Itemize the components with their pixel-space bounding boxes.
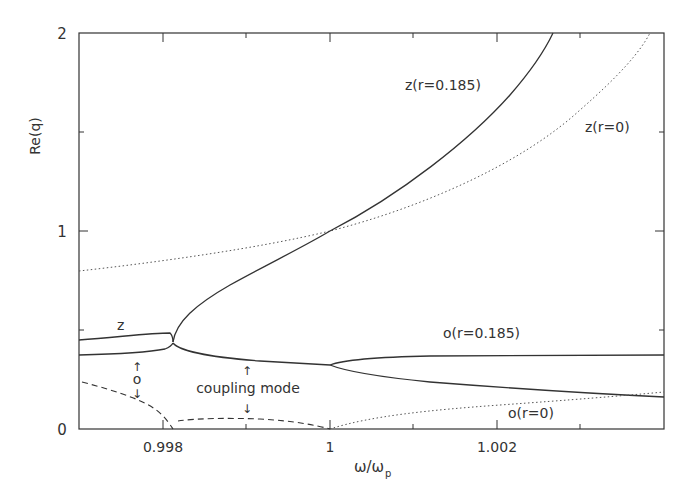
series-dashed-left [82, 382, 173, 429]
x-axis-label-subscript: p [385, 468, 391, 479]
arrow-down-icon: ↓ [242, 402, 252, 416]
annotation-coupling-mode: coupling mode [196, 380, 300, 396]
series-o-r0185-lower [330, 365, 664, 397]
plot-frame [79, 33, 664, 429]
annotation-o: o [133, 371, 142, 387]
y-tick-label: 2 [57, 25, 67, 43]
y-tick-label: 0 [57, 421, 67, 439]
chart-canvas: 0.998 1 1.002 0 1 2 Re(q) ω/ω p z(r=0.18… [0, 0, 687, 500]
annotation-o-r0185: o(r=0.185) [443, 325, 520, 341]
x-axis-label: ω/ω [354, 458, 384, 476]
annotation-o-r0: o(r=0) [508, 405, 554, 421]
annotation-z: z [117, 317, 124, 333]
y-ticks [79, 132, 664, 330]
x-tick-label: 1 [326, 439, 335, 455]
arrow-up-icon: ↑ [242, 364, 252, 378]
series-dashed-right [178, 418, 330, 429]
x-tick-label: 1.002 [477, 439, 517, 455]
y-tick-label: 1 [57, 223, 67, 241]
annotation-z-r0: z(r=0) [585, 119, 630, 135]
series-z-left [79, 333, 173, 342]
series-z-r0185 [173, 33, 553, 342]
annotation-z-r0185: z(r=0.185) [405, 77, 481, 93]
x-ticks [163, 33, 580, 429]
series-o-left [79, 343, 173, 355]
x-tick-label: 0.998 [143, 439, 183, 455]
arrow-down-icon: ↓ [132, 387, 142, 401]
series-z-r0 [79, 33, 650, 271]
series-o-r0185-upper [330, 355, 664, 365]
series-coupling-r0185 [173, 343, 330, 365]
y-axis-label: Re(q) [27, 117, 43, 155]
